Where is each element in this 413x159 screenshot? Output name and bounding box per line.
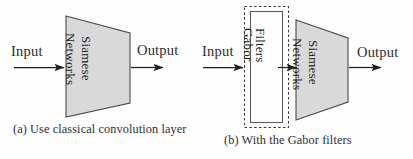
figure-container: Input Output Networks Siamese (a) Use cl…	[0, 0, 413, 159]
input-label-b: Input	[202, 43, 234, 60]
siamese-networks-label-line2-a: Siamese	[78, 36, 94, 81]
siamese-networks-label-line2-b: Siamese	[305, 40, 321, 85]
output-label-a: Output	[137, 42, 178, 59]
siamese-networks-label-line1-a: Networks	[62, 33, 78, 85]
input-label-a: Input	[11, 43, 43, 60]
siamese-networks-label-line1-b: Networks	[289, 38, 305, 90]
caption-a: (a) Use classical convolution layer	[13, 122, 187, 137]
gabor-filters-label-line2: Filters	[252, 28, 268, 63]
output-label-b: Output	[357, 44, 398, 61]
caption-b: (b) With the Gabor filters	[224, 133, 352, 148]
